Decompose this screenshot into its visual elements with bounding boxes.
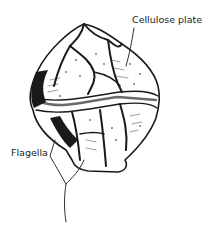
dinoflagellate-illustration (0, 0, 218, 234)
flagella-label: Flagella (11, 147, 48, 158)
flagella-pointer (50, 140, 66, 184)
cellulose-plate-label: Cellulose plate (132, 14, 202, 25)
